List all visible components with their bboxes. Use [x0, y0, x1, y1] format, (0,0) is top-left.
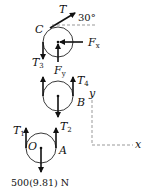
force-t3-label: T3	[32, 56, 44, 70]
x-axis-label: x	[135, 138, 142, 151]
coordinate-axes: y x	[88, 87, 142, 151]
force-t3-on-c: T3	[32, 42, 44, 70]
angle-label: 30°	[78, 12, 96, 23]
force-fx: Fx	[60, 36, 100, 50]
y-axis-label: y	[88, 87, 96, 100]
force-t2-label: T2	[60, 120, 72, 134]
pulley-c-axle	[57, 41, 60, 44]
force-t1: T1	[13, 124, 26, 148]
pulley-free-body-diagram: C T 30° Fx Fy T3 B T4	[0, 0, 144, 193]
force-t: T	[50, 3, 75, 28]
force-fx-label: Fx	[87, 36, 100, 50]
force-t1-label: T1	[13, 124, 25, 138]
pulley-c: C	[35, 23, 73, 57]
force-fy: Fy	[53, 44, 66, 78]
force-fy-label: Fy	[53, 64, 66, 78]
force-t4-label: T4	[77, 74, 89, 88]
point-a-label: A	[58, 144, 67, 157]
pulley-c-label: C	[35, 23, 44, 36]
force-t-label: T	[59, 3, 68, 16]
pulley-o: O A	[26, 133, 67, 163]
pulley-o-label: O	[28, 140, 37, 153]
pulley-b-label: B	[76, 96, 85, 109]
load-label: 500(9.81) N	[11, 177, 69, 188]
force-t4: T4	[73, 74, 89, 96]
